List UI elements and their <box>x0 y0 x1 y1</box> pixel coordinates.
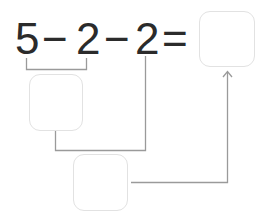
connector-lines <box>0 0 261 220</box>
bracket-connector <box>27 58 87 70</box>
step1-connector <box>56 56 146 151</box>
